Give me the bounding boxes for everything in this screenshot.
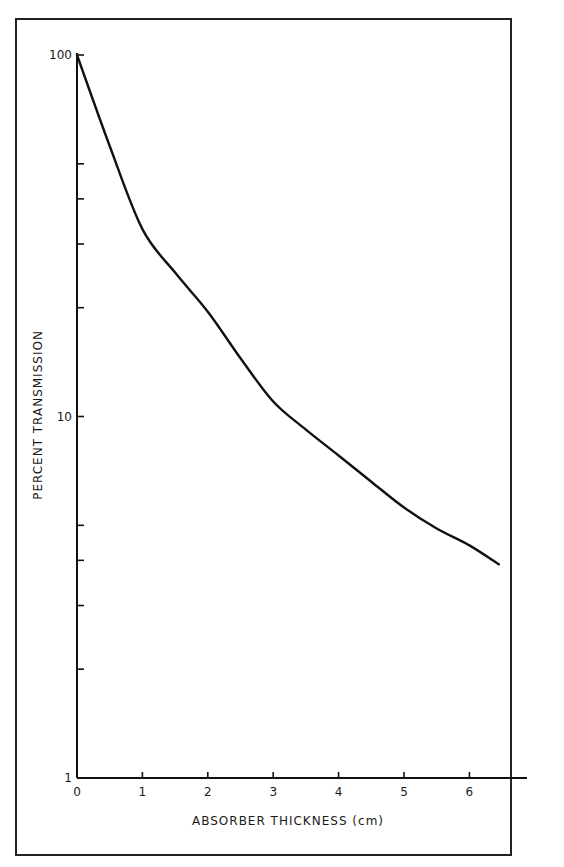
- y-tick-label: 100: [49, 48, 72, 62]
- x-tick-label: 4: [335, 785, 343, 799]
- chart: 0123456110100 ABSORBER THICKNESS (cm) PE…: [0, 0, 564, 867]
- ticks: [77, 55, 469, 778]
- transmission-curve: [77, 55, 499, 564]
- y-axis-title: PERCENT TRANSMISSION: [31, 330, 45, 500]
- tick-labels: 0123456110100: [49, 48, 473, 799]
- x-tick-label: 6: [466, 785, 474, 799]
- x-tick-label: 3: [269, 785, 277, 799]
- axes: [77, 53, 527, 778]
- y-tick-label: 10: [57, 410, 72, 424]
- x-tick-label: 5: [400, 785, 408, 799]
- x-tick-label: 2: [204, 785, 212, 799]
- y-tick-label: 1: [64, 771, 72, 785]
- x-axis-title: ABSORBER THICKNESS (cm): [192, 814, 384, 828]
- x-tick-label: 0: [73, 785, 81, 799]
- x-tick-label: 1: [139, 785, 147, 799]
